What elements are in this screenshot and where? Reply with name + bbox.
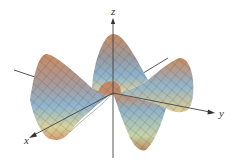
x-axis-arrowhead <box>29 132 37 138</box>
surface-center-peak <box>92 34 148 93</box>
z-axis-arrowhead <box>111 18 115 24</box>
surface-plot: z x y <box>0 0 239 168</box>
y-axis-label: y <box>218 107 224 119</box>
y-axis-arrowhead <box>208 110 216 115</box>
z-axis-label: z <box>110 5 116 17</box>
x-axis-label: x <box>23 134 29 146</box>
